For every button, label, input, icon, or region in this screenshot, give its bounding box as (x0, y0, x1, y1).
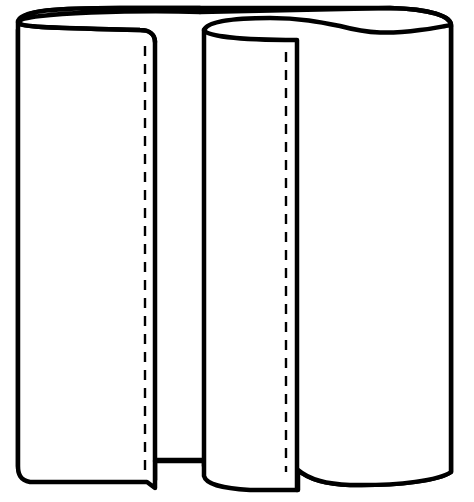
right-roll-panel (204, 18, 451, 490)
right-roll (200, 8, 451, 490)
diagram-canvas: Two rolled sheets with seam lines (0, 0, 474, 502)
